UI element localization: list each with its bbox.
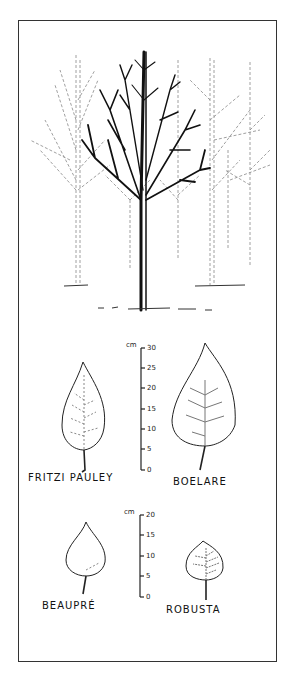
scale-tick: 10	[147, 425, 156, 433]
scale-tick: 25	[147, 364, 156, 372]
leaf-label-fritzi-pauley: FRITZI PAULEY	[28, 472, 113, 483]
scale-tick: 5	[147, 445, 151, 453]
scale-tick: 5	[146, 572, 150, 580]
scale-unit-label: cm	[126, 341, 137, 349]
leaf-boelare	[172, 343, 235, 470]
scale-unit-label: cm	[124, 508, 135, 516]
scale-tick: 0	[146, 593, 150, 601]
scale-tick: 15	[147, 405, 156, 413]
illustration	[0, 0, 289, 684]
leaf-beaupre	[66, 522, 105, 594]
leaf-fritzi-pauley	[62, 362, 105, 472]
scale-tick: 10	[146, 552, 155, 560]
scale-tick: 20	[146, 511, 155, 519]
scale-tick: 20	[147, 384, 156, 392]
scale-20cm	[140, 515, 144, 597]
background-trees	[30, 55, 270, 285]
scale-tick: 30	[147, 344, 156, 352]
leaf-robusta	[186, 541, 223, 600]
scale-tick: 0	[147, 466, 151, 474]
scale-30cm	[141, 348, 145, 470]
scale-tick: 15	[146, 531, 155, 539]
foreground-tree	[82, 52, 210, 310]
leaf-label-boelare: BOELARE	[173, 476, 227, 487]
leaf-label-robusta: ROBUSTA	[166, 604, 221, 615]
ground	[64, 285, 245, 310]
leaf-label-beaupre: BEAUPRÉ	[42, 600, 96, 611]
